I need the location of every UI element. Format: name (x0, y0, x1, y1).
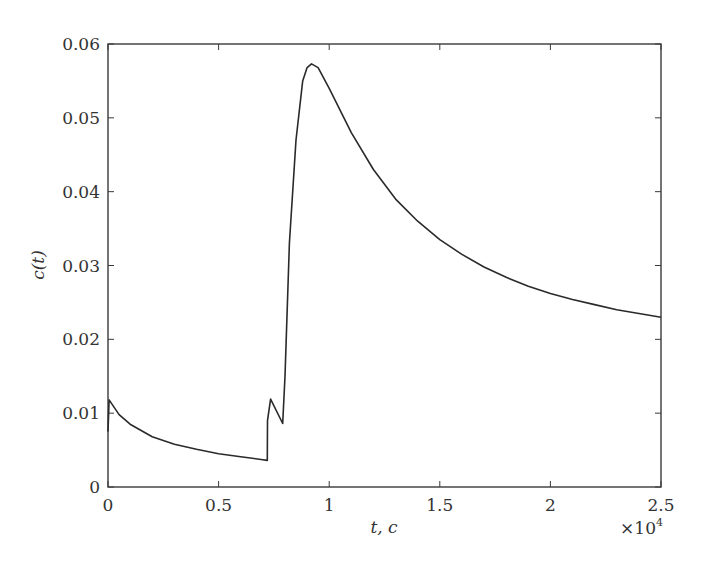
axis-ticks (108, 44, 661, 487)
x-axis-label: t, c (370, 517, 398, 537)
x-tick-label: 2.5 (647, 495, 674, 515)
y-tick-label: 0.06 (62, 34, 100, 54)
x-tick-label: 0.5 (205, 495, 232, 515)
chart: 00.010.020.030.040.050.06 00.511.522.5 t… (0, 0, 705, 566)
x-axis-multiplier-exponent: 4 (656, 516, 663, 529)
x-tick-label: 2 (545, 495, 556, 515)
x-tick-labels: 00.511.522.5 (103, 495, 675, 515)
plot-frame (108, 44, 661, 487)
y-tick-label: 0.01 (62, 403, 100, 423)
y-tick-label: 0.05 (62, 108, 100, 128)
x-tick-label: 0 (103, 495, 114, 515)
y-tick-labels: 00.010.020.030.040.050.06 (62, 34, 100, 497)
x-tick-label: 1 (324, 495, 335, 515)
y-tick-label: 0.03 (62, 256, 100, 276)
x-axis-multiplier-base: ×10 (620, 518, 656, 538)
y-tick-label: 0.02 (62, 329, 100, 349)
y-axis-label: c(t) (28, 250, 48, 280)
y-tick-label: 0.04 (62, 182, 100, 202)
x-tick-label: 1.5 (426, 495, 453, 515)
series-line-c-t (108, 64, 661, 461)
plot-border (108, 44, 661, 487)
y-tick-label: 0 (89, 477, 100, 497)
x-axis-multiplier: ×104 (620, 516, 663, 538)
